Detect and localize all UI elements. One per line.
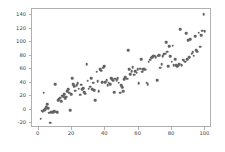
- scatter-point: [194, 35, 197, 38]
- scatter-point: [129, 73, 132, 76]
- scatter-point: [101, 81, 104, 84]
- scatter-point: [96, 80, 99, 83]
- scatter-point: [74, 90, 77, 93]
- scatter-point: [54, 83, 57, 86]
- scatter-point: [90, 77, 93, 80]
- x-tick-label: 60: [134, 130, 141, 136]
- scatter-point: [82, 87, 85, 90]
- scatter-point: [47, 107, 50, 110]
- scatter-point: [168, 45, 171, 48]
- scatter-point: [85, 63, 88, 66]
- scatter-point: [158, 54, 161, 57]
- scatter-point: [144, 69, 147, 72]
- scatter-point: [203, 30, 206, 33]
- scatter-point: [170, 60, 173, 63]
- scatter-point: [76, 82, 79, 85]
- x-tick-mark: [171, 127, 172, 130]
- scatter-point: [160, 63, 163, 66]
- scatter-point: [141, 71, 144, 74]
- scatter-point: [86, 79, 89, 82]
- scatter-point: [140, 58, 143, 61]
- scatter-point: [119, 92, 122, 95]
- y-tick-mark: [29, 14, 32, 15]
- scatter-point: [165, 41, 168, 44]
- x-tick-label: 40: [101, 130, 108, 136]
- scatter-point: [184, 60, 187, 63]
- scatter-point: [180, 64, 183, 67]
- scatter-point: [167, 65, 170, 68]
- scatter-point: [179, 28, 182, 31]
- plot-axes-area: [31, 8, 211, 127]
- x-tick-label: 80: [168, 130, 175, 136]
- scatter-point: [202, 13, 205, 16]
- scatter-point: [60, 100, 63, 103]
- scatter-point: [116, 77, 119, 80]
- scatter-point: [56, 111, 59, 114]
- y-tick-label: 100: [6, 38, 26, 44]
- scatter-point: [39, 117, 42, 120]
- scatter-points-layer: [32, 9, 210, 126]
- scatter-point: [171, 44, 174, 47]
- y-tick-mark: [29, 28, 32, 29]
- scatter-point: [79, 94, 82, 97]
- y-tick-label: 60: [6, 65, 26, 71]
- scatter-point: [156, 79, 159, 82]
- scatter-point: [174, 58, 177, 61]
- scatter-point: [95, 71, 98, 74]
- scatter-point: [42, 92, 45, 95]
- scatter-point: [94, 99, 97, 102]
- scatter-point: [146, 83, 149, 86]
- scatter-point: [191, 51, 194, 54]
- scatter-point: [192, 54, 195, 57]
- x-tick-mark: [204, 127, 205, 130]
- scatter-point: [127, 49, 130, 52]
- scatter-point: [113, 91, 116, 94]
- y-tick-label: 120: [6, 25, 26, 31]
- y-tick-mark: [29, 82, 32, 83]
- scatter-point: [166, 50, 169, 53]
- scatter-point: [92, 81, 95, 84]
- scatter-point: [67, 88, 70, 91]
- x-tick-mark: [138, 127, 139, 130]
- scatter-point: [139, 67, 142, 70]
- scatter-point: [137, 82, 140, 85]
- x-tick-mark: [104, 127, 105, 130]
- y-tick-label: 140: [6, 11, 26, 17]
- scatter-point: [159, 67, 162, 70]
- scatter-point: [188, 56, 191, 59]
- y-tick-label: 40: [6, 79, 26, 85]
- x-tick-label: 0: [36, 130, 39, 136]
- scatter-point: [70, 93, 73, 96]
- scatter-point: [196, 50, 199, 53]
- x-tick-label: 20: [68, 130, 75, 136]
- scatter-point: [71, 77, 74, 80]
- x-tick-mark: [38, 127, 39, 130]
- scatter-point: [80, 83, 83, 86]
- scatter-point: [97, 90, 100, 93]
- y-tick-mark: [29, 68, 32, 69]
- scatter-point: [46, 103, 49, 106]
- y-tick-label: 80: [6, 52, 26, 58]
- scatter-point: [126, 77, 129, 80]
- scatter-point: [200, 34, 203, 37]
- y-tick-mark: [29, 95, 32, 96]
- scatter-point: [65, 96, 68, 99]
- scatter-point: [77, 87, 80, 90]
- y-tick-mark: [29, 122, 32, 123]
- scatter-point: [131, 66, 134, 69]
- y-tick-label: -20: [6, 119, 26, 125]
- scatter-point: [135, 71, 138, 74]
- scatter-point: [122, 90, 125, 93]
- y-tick-label: 0: [6, 106, 26, 112]
- scatter-point: [100, 69, 103, 72]
- scatter-point: [49, 121, 52, 124]
- scatter-point: [169, 55, 172, 58]
- y-tick-mark: [29, 55, 32, 56]
- scatter-point: [189, 38, 192, 41]
- scatter-point: [103, 65, 106, 68]
- scatter-point: [93, 89, 96, 92]
- scatter-point: [199, 46, 202, 49]
- scatter-point: [185, 32, 188, 35]
- scatter-point: [121, 86, 124, 89]
- x-tick-label: 100: [199, 130, 209, 136]
